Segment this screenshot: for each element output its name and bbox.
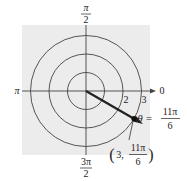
angle-label-top-num: π	[83, 2, 89, 13]
point-label-num: 11π	[131, 142, 146, 153]
radius-label-2: 2	[124, 94, 129, 105]
polar-axis-arrow-icon	[150, 89, 156, 94]
point-label-den: 6	[136, 156, 141, 167]
ray-label-den: 6	[168, 120, 173, 131]
plotted-point	[131, 116, 136, 121]
polar-diagram: π 2 π 0 2 3 θ = 11π 6 3π 2 ( 3, 11π 6 )	[0, 0, 187, 181]
angle-label-top-den: 2	[84, 14, 89, 25]
point-label-r: 3,	[116, 149, 124, 160]
ray-label-theta: θ =	[137, 112, 153, 124]
angle-label-bottom-den: 2	[84, 168, 89, 179]
point-label-close-paren: )	[148, 146, 153, 164]
angle-label-bottom-num: 3π	[81, 156, 91, 167]
radius-label-3: 3	[142, 94, 147, 105]
angle-label-left: π	[14, 85, 20, 96]
angle-label-right: 0	[160, 85, 165, 96]
point-label-open-paren: (	[109, 146, 114, 164]
ray-label-num: 11π	[163, 106, 178, 117]
